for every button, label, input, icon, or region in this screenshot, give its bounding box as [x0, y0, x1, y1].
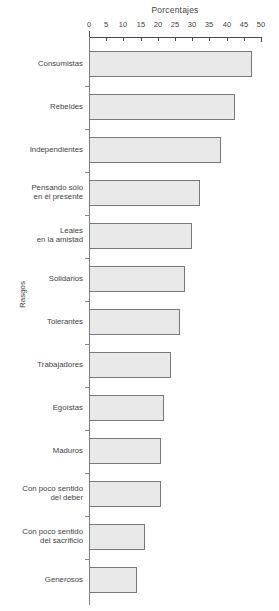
x-axis-tick-35: [209, 37, 210, 41]
bar-consumistas[interactable]: [90, 51, 252, 77]
x-tick-label-20: 20: [154, 20, 162, 29]
y-axis-tick-11: [85, 559, 90, 560]
x-axis-tick-10: [123, 37, 124, 41]
category-label-maduros: Maduros: [3, 446, 83, 456]
bar-rebeldes[interactable]: [90, 94, 235, 120]
bar-solidarios[interactable]: [90, 266, 185, 292]
bar-tolerantes[interactable]: [90, 309, 180, 335]
category-label-poco-sacrificio-line2: del sacrificio: [3, 536, 83, 546]
x-tick-label-50: 50: [257, 20, 265, 29]
category-label-leales-line2: en la amistad: [3, 235, 83, 245]
x-axis-tick-45: [244, 37, 245, 41]
x-axis-tick-20: [158, 37, 159, 41]
bar-generosos[interactable]: [90, 567, 137, 593]
y-axis-tick-0: [85, 86, 90, 87]
x-tick-label-45: 45: [240, 20, 248, 29]
bar-maduros[interactable]: [90, 438, 161, 464]
category-label-egoistas: Egoístas: [3, 403, 83, 413]
y-axis-tick-8: [85, 430, 90, 431]
category-label-trabajadores: Trabajadores: [3, 360, 83, 370]
category-label-independientes: Independientes: [3, 145, 83, 155]
y-axis-tick-9: [85, 473, 90, 474]
y-axis-tick-2: [85, 172, 90, 173]
bar-independientes[interactable]: [90, 137, 221, 163]
bar-poco-sentido-sacrificio[interactable]: [90, 524, 145, 550]
y-axis-tick-5: [85, 301, 90, 302]
y-axis-tick-6: [85, 344, 90, 345]
category-label-poco-deber-line2: del deber: [3, 493, 83, 503]
x-axis-tick-30: [192, 37, 193, 41]
x-axis-tick-40: [227, 37, 228, 41]
x-axis-tick-50: [261, 37, 262, 42]
x-axis-tick-15: [141, 37, 142, 41]
bar-trabajadores[interactable]: [90, 352, 171, 378]
x-tick-label-0: 0: [87, 20, 91, 29]
x-axis-tick-5: [106, 37, 107, 41]
x-tick-label-15: 15: [137, 20, 145, 29]
y-axis-tick-3: [85, 215, 90, 216]
x-tick-label-10: 10: [119, 20, 127, 29]
y-axis-tick-10: [85, 516, 90, 517]
y-axis-tick-1: [85, 129, 90, 130]
y-axis-tick-7: [85, 387, 90, 388]
category-label-tolerantes: Tolerantes: [3, 317, 83, 327]
bar-pensando-solo-presente[interactable]: [90, 180, 200, 206]
x-tick-label-35: 35: [205, 20, 213, 29]
x-tick-label-5: 5: [104, 20, 108, 29]
x-axis-tick-25: [175, 37, 176, 41]
category-label-rebeldes: Rebeldes: [3, 102, 83, 112]
category-label-solidarios: Solidarios: [3, 274, 83, 284]
y-axis-tick-4: [85, 258, 90, 259]
bar-poco-sentido-deber[interactable]: [90, 481, 161, 507]
x-tick-label-30: 30: [188, 20, 196, 29]
bar-leales-amistad[interactable]: [90, 223, 192, 249]
category-label-pensando-solo-line2: en el presente: [3, 192, 83, 202]
horizontal-bar-chart: Porcentajes 0 5 10 15 20 25 30 35 40 45 …: [0, 0, 279, 611]
x-tick-label-40: 40: [223, 20, 231, 29]
category-label-consumistas: Consumistas: [3, 59, 83, 69]
x-tick-label-25: 25: [171, 20, 179, 29]
category-label-generosos: Generosos: [3, 575, 83, 585]
bar-egoistas[interactable]: [90, 395, 164, 421]
x-axis-title: Porcentajes: [89, 5, 261, 15]
